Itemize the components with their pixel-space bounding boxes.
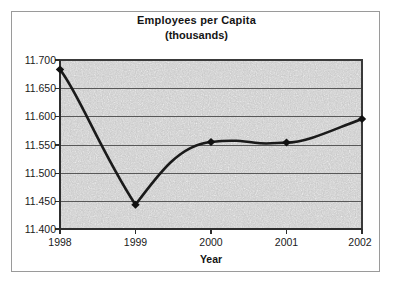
x-axis-title: Year [60,253,362,265]
x-tick-label: 2001 [260,236,314,248]
x-axis-tick-labels: 1998 1999 2000 2001 2002 [0,0,393,284]
x-tick-label: 2002 [333,236,387,248]
x-tick-label: 1998 [33,236,87,248]
x-tick-label: 1999 [109,236,163,248]
x-tick-label: 2000 [184,236,238,248]
chart-figure: Employees per Capita (thousands) [0,0,393,284]
